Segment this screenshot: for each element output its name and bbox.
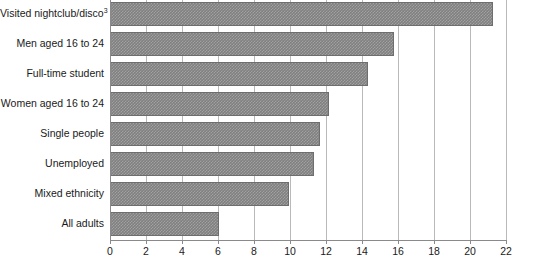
category-label: Visited nightclub/disco3 xyxy=(0,8,104,19)
category-label: Single people xyxy=(0,128,104,139)
gridline-18 xyxy=(434,0,435,240)
x-axis-line xyxy=(110,240,506,241)
x-tick-label: 22 xyxy=(500,246,512,257)
x-tick-8 xyxy=(254,240,255,244)
x-tick-label: 18 xyxy=(428,246,440,257)
x-tick-2 xyxy=(146,240,147,244)
x-tick-label: 20 xyxy=(464,246,476,257)
gridline-20 xyxy=(470,0,471,240)
category-label: Unemployed xyxy=(0,158,104,169)
x-tick-18 xyxy=(434,240,435,244)
bar xyxy=(110,2,493,26)
x-tick-label: 10 xyxy=(284,246,296,257)
bar xyxy=(110,62,368,86)
x-tick-12 xyxy=(326,240,327,244)
x-tick-label: 16 xyxy=(392,246,404,257)
category-label: All adults xyxy=(0,218,104,229)
bar xyxy=(110,122,320,146)
bar xyxy=(110,92,329,116)
plot-area xyxy=(110,0,506,240)
x-tick-label: 4 xyxy=(179,246,185,257)
x-tick-22 xyxy=(506,240,507,244)
bar-chart: Visited nightclub/disco3Men aged 16 to 2… xyxy=(0,0,538,272)
x-tick-0 xyxy=(110,240,111,244)
x-tick-14 xyxy=(362,240,363,244)
x-tick-label: 14 xyxy=(356,246,368,257)
category-label: Women aged 16 to 24 xyxy=(0,98,104,109)
category-axis-labels: Visited nightclub/disco3Men aged 16 to 2… xyxy=(0,0,110,240)
x-tick-4 xyxy=(182,240,183,244)
gridline-22 xyxy=(506,0,507,240)
x-tick-10 xyxy=(290,240,291,244)
x-tick-label: 6 xyxy=(215,246,221,257)
category-label: Full-time student xyxy=(0,68,104,79)
x-tick-20 xyxy=(470,240,471,244)
bar xyxy=(110,152,314,176)
bar xyxy=(110,182,289,206)
x-tick-label: 2 xyxy=(143,246,149,257)
y-axis-line xyxy=(110,0,111,240)
gridline-16 xyxy=(398,0,399,240)
x-tick-label: 0 xyxy=(107,246,113,257)
bar xyxy=(110,212,219,236)
x-tick-label: 8 xyxy=(251,246,257,257)
category-label: Men aged 16 to 24 xyxy=(0,38,104,49)
bar xyxy=(110,32,394,56)
category-label: Mixed ethnicity xyxy=(0,188,104,199)
x-tick-6 xyxy=(218,240,219,244)
x-tick-label: 12 xyxy=(320,246,332,257)
x-tick-16 xyxy=(398,240,399,244)
